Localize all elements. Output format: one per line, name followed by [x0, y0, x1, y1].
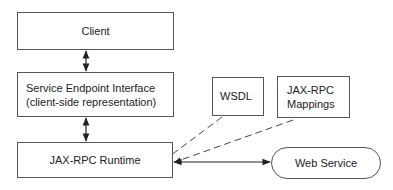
sei-label-line2: (client-side representation): [26, 95, 156, 109]
runtime-label: JAX-RPC Runtime: [49, 153, 140, 167]
wsdl-node: WSDL: [212, 77, 264, 116]
client-label: Client: [81, 24, 109, 38]
jax-rpc-runtime-node: JAX-RPC Runtime: [17, 142, 173, 178]
sei-label-line1: Service Endpoint Interface: [26, 81, 155, 95]
client-node: Client: [17, 12, 174, 50]
service-endpoint-interface-node: Service Endpoint Interface (client-side …: [17, 72, 174, 117]
jax-rpc-mappings-node: JAX-RPC Mappings: [277, 76, 350, 118]
mappings-label-line2: Mappings: [287, 97, 335, 111]
wsdl-label: WSDL: [220, 89, 252, 103]
mappings-label-line1: JAX-RPC: [287, 83, 334, 97]
webservice-label: Web Service: [295, 156, 357, 170]
web-service-node: Web Service: [271, 147, 381, 179]
